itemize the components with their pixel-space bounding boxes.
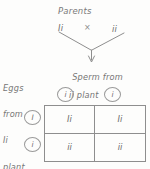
parents-title: Parents [58,7,92,16]
column-gamete-1: i [57,87,74,102]
eggs-label-line4: plant [3,163,25,169]
punnett-grid: Ii Ii ii ii [44,105,146,162]
offspring-cell-2-1: ii [45,134,95,162]
eggs-label-line2: from [3,110,25,119]
cross-arrow-icon [56,30,128,63]
eggs-label-line1: Eggs [3,84,25,93]
column-gamete-2: i [104,87,121,102]
eggs-source-label: Eggs from Ii plant [3,66,25,169]
eggs-label-line3: Ii [3,136,25,145]
sperm-label-line1: Sperm from [72,72,123,82]
offspring-cell-1-1: Ii [45,106,95,134]
row-gamete-2: i [24,137,41,152]
offspring-cell-1-2: Ii [95,106,145,134]
offspring-cell-2-2: ii [95,134,145,162]
punnett-square-diagram: Parents Ii × ii Sperm from ii plant Eggs… [0,0,150,169]
row-gamete-1: I [24,110,41,125]
